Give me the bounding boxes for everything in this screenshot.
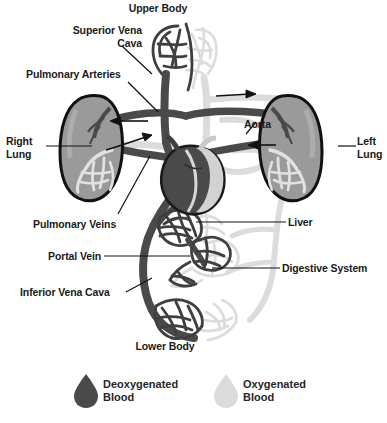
lower-body-oxygenated-capillaries xyxy=(200,300,236,340)
deoxygenated-drop-icon xyxy=(74,374,98,408)
leader-pulmonary-veins xyxy=(118,156,150,214)
label-superior-vena-cava: Superior Vena Cava xyxy=(0,24,142,49)
leader-pulmonary-arteries xyxy=(128,82,158,112)
label-portal-vein: Portal Vein xyxy=(48,250,128,263)
label-lower-body: Lower Body xyxy=(115,340,215,353)
label-liver: Liver xyxy=(288,216,338,229)
legend-label-deoxygenated: Deoxygenated Blood xyxy=(103,378,213,404)
oxygenated-drop-icon xyxy=(214,374,238,408)
hepatic-artery-branch xyxy=(232,229,276,236)
label-upper-body: Upper Body xyxy=(108,2,208,15)
label-pulmonary-veins: Pulmonary Veins xyxy=(33,218,153,231)
descending-aorta xyxy=(250,190,284,320)
superior-vena-cava-trunk xyxy=(165,74,167,142)
label-aorta: Aorta xyxy=(244,118,294,131)
label-pulmonary-arteries: Pulmonary Arteries xyxy=(26,68,166,81)
label-left-lung: Left Lung xyxy=(357,135,387,160)
legend-label-oxygenated: Oxygenated Blood xyxy=(243,378,353,404)
label-inferior-vena-cava: Inferior Vena Cava xyxy=(20,286,136,299)
left-lung-organ xyxy=(260,96,323,201)
label-right-lung: Right Lung xyxy=(6,135,50,160)
label-digestive-system: Digestive System xyxy=(282,262,386,275)
